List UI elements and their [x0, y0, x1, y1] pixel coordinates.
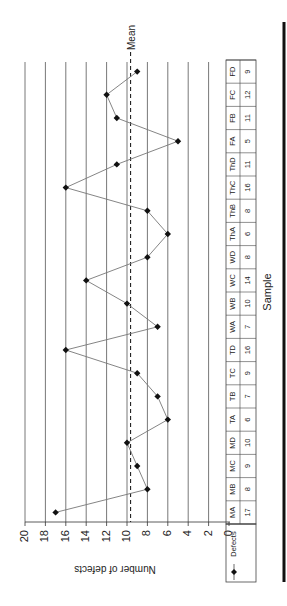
- sample-label: ThD: [228, 157, 237, 172]
- sample-label: MB: [228, 484, 237, 495]
- data-point-marker: [114, 161, 120, 167]
- legend-marker: [231, 569, 237, 575]
- mean-label: Mean: [126, 25, 137, 50]
- defect-count: 16: [243, 346, 252, 354]
- tick-label: 2: [202, 530, 214, 536]
- defect-count: 6: [243, 418, 252, 422]
- data-point-marker: [175, 138, 181, 144]
- defect-count: 10: [243, 439, 252, 447]
- tick-label: 16: [59, 530, 71, 542]
- data-point-marker: [144, 486, 150, 492]
- defect-count: 9: [243, 464, 252, 468]
- sample-label: FD: [228, 66, 237, 77]
- defect-count: 16: [243, 183, 252, 191]
- value-axis-label: Number of defects: [74, 564, 156, 575]
- data-point-marker: [124, 440, 130, 446]
- tick-label: 8: [140, 530, 152, 536]
- tick-label: 20: [18, 530, 30, 542]
- sample-label: WA: [228, 321, 237, 333]
- defect-count: 12: [243, 91, 252, 99]
- sample-label: ThC: [228, 180, 237, 195]
- defect-count: 10: [243, 299, 252, 307]
- sample-label: WC: [228, 274, 237, 287]
- defect-count: 11: [243, 161, 252, 169]
- defect-count: 11: [243, 114, 252, 122]
- defect-count: 6: [243, 232, 252, 236]
- sample-label: TD: [228, 344, 237, 355]
- sample-label: ThB: [228, 204, 237, 218]
- defect-count: 8: [243, 255, 252, 259]
- data-point-marker: [165, 416, 171, 422]
- defect-count: 5: [243, 139, 252, 143]
- defect-count: 8: [243, 209, 252, 213]
- sample-label: MC: [228, 460, 237, 472]
- defect-count: 17: [243, 508, 252, 516]
- defect-count: 7: [243, 325, 252, 329]
- sample-label: FA: [228, 137, 237, 146]
- data-point-marker: [83, 277, 89, 283]
- defect-count: 9: [243, 70, 252, 74]
- tick-label: 12: [100, 530, 112, 542]
- defects-run-chart: 02468101214161820Number of defectsMeanMA…: [0, 0, 287, 606]
- tick-label: 14: [79, 530, 91, 542]
- defect-count: 8: [243, 487, 252, 491]
- sample-label: WD: [228, 250, 237, 263]
- data-point-marker: [114, 115, 120, 121]
- tick-label: 18: [38, 530, 50, 542]
- tick-label: 6: [161, 530, 173, 536]
- sample-label: MA: [228, 507, 237, 518]
- defects-series-line: [56, 72, 178, 513]
- sample-label: WB: [228, 298, 237, 310]
- data-point-marker: [63, 184, 69, 190]
- sample-label: FC: [228, 89, 237, 100]
- legend-label: Defects: [229, 531, 238, 557]
- sample-axis-label: Sample: [261, 273, 273, 310]
- tick-label: 4: [181, 530, 193, 536]
- sample-label: TC: [228, 368, 237, 379]
- tick-label: 10: [120, 530, 132, 542]
- chart-canvas: 02468101214161820Number of defectsMeanMA…: [0, 0, 287, 606]
- defect-count: 14: [243, 276, 252, 284]
- sample-label: TB: [228, 392, 237, 402]
- sample-label: MD: [228, 436, 237, 448]
- defect-count: 9: [243, 371, 252, 375]
- sample-label: TA: [228, 415, 237, 424]
- data-point-marker: [134, 463, 140, 469]
- sample-label: ThA: [228, 227, 237, 241]
- sample-label: FB: [228, 113, 237, 123]
- data-point-marker: [52, 509, 58, 515]
- defect-count: 7: [243, 394, 252, 398]
- data-point-marker: [63, 347, 69, 353]
